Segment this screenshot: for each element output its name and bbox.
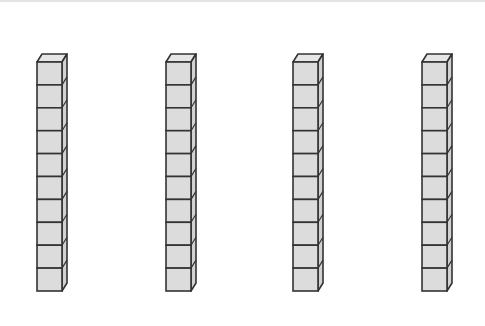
tens-rod (37, 54, 67, 291)
unit-cube (422, 199, 447, 222)
unit-cube (422, 62, 447, 85)
unit-cube (293, 131, 318, 154)
unit-cube (293, 177, 318, 200)
unit-cube (166, 108, 191, 131)
base-ten-rods-diagram (0, 0, 485, 326)
unit-cube (166, 245, 191, 268)
unit-cube (166, 199, 191, 222)
unit-cube (37, 177, 62, 200)
unit-cube (166, 268, 191, 291)
unit-cube (166, 131, 191, 154)
unit-cube (166, 177, 191, 200)
unit-cube (293, 154, 318, 177)
unit-cube (166, 154, 191, 177)
unit-cube (422, 268, 447, 291)
unit-cube (37, 199, 62, 222)
unit-cube (422, 245, 447, 268)
unit-cube (293, 62, 318, 85)
tens-rod (422, 54, 452, 291)
unit-cube (293, 268, 318, 291)
unit-cube (422, 85, 447, 108)
unit-cube (293, 222, 318, 245)
unit-cube (422, 177, 447, 200)
unit-cube (422, 131, 447, 154)
unit-cube (37, 131, 62, 154)
unit-cube (422, 108, 447, 131)
unit-cube (293, 199, 318, 222)
tens-rod (166, 54, 196, 291)
unit-cube (293, 85, 318, 108)
unit-cube (37, 154, 62, 177)
unit-cube (37, 222, 62, 245)
unit-cube (37, 108, 62, 131)
unit-cube (293, 108, 318, 131)
unit-cube (166, 85, 191, 108)
tens-rod (293, 54, 323, 291)
unit-cube (37, 85, 62, 108)
unit-cube (37, 245, 62, 268)
unit-cube (166, 62, 191, 85)
unit-cube (422, 154, 447, 177)
unit-cube (166, 222, 191, 245)
unit-cube (293, 245, 318, 268)
unit-cube (422, 222, 447, 245)
unit-cube (37, 62, 62, 85)
unit-cube (37, 268, 62, 291)
